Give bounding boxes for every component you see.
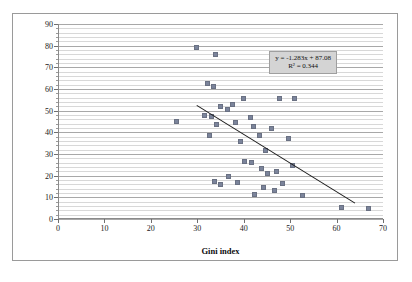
scatter-point	[241, 96, 246, 101]
y-tick	[56, 41, 58, 42]
y-tick	[56, 141, 58, 142]
y-tick	[56, 50, 58, 51]
gridline-major	[58, 111, 383, 112]
plot-area: 0102030405060708090 010203040506070 y = …	[58, 24, 383, 219]
gridline-minor	[58, 167, 383, 168]
gridline-major	[58, 197, 383, 198]
y-tick	[56, 167, 58, 168]
gridline-minor	[58, 37, 383, 38]
gridline-minor	[58, 158, 383, 159]
y-tick-label: 20	[45, 171, 53, 180]
x-tick-label: 70	[379, 224, 387, 233]
gridline-minor	[58, 137, 383, 138]
gridline-minor	[58, 85, 383, 86]
gridline-minor	[58, 80, 383, 81]
y-tick	[56, 85, 58, 86]
scatter-point	[225, 107, 230, 112]
scatter-point	[212, 179, 217, 184]
y-tick	[56, 158, 58, 159]
y-tick	[56, 115, 58, 116]
y-tick	[56, 184, 58, 185]
y-tick-label: 80	[45, 41, 53, 50]
y-tick	[54, 67, 58, 68]
gridline-minor	[58, 98, 383, 99]
y-tick	[56, 137, 58, 138]
gridline-minor	[58, 163, 383, 164]
gridline-major	[58, 176, 383, 177]
scatter-point	[202, 113, 207, 118]
y-tick	[56, 128, 58, 129]
y-tick	[54, 176, 58, 177]
y-tick	[56, 145, 58, 146]
x-tick-label: 10	[100, 224, 108, 233]
gridline-minor	[58, 33, 383, 34]
scatter-point	[248, 115, 253, 120]
y-tick-label: 70	[45, 63, 53, 72]
y-tick	[56, 206, 58, 207]
scatter-point	[230, 102, 235, 107]
y-tick	[56, 93, 58, 94]
gridline-major	[58, 89, 383, 90]
equation-annotation: y = -1.283x + 87.08 R² = 0.344	[269, 51, 337, 74]
y-tick-label: 10	[45, 193, 53, 202]
y-tick	[54, 89, 58, 90]
x-tick	[197, 219, 198, 223]
x-tick	[151, 219, 152, 223]
y-tick	[56, 33, 58, 34]
scatter-point	[366, 206, 371, 211]
gridline-minor	[58, 141, 383, 142]
gridline-minor	[58, 93, 383, 94]
r-squared-text: R² = 0.344	[275, 62, 331, 70]
x-tick	[244, 219, 245, 223]
x-tick-label: 30	[193, 224, 201, 233]
x-tick-label: 0	[56, 224, 60, 233]
y-tick-label: 30	[45, 150, 53, 159]
scatter-point	[233, 120, 238, 125]
scatter-point	[205, 81, 210, 86]
gridline-minor	[58, 115, 383, 116]
y-tick	[56, 72, 58, 73]
y-tick	[56, 180, 58, 181]
y-tick	[56, 215, 58, 216]
scatter-point	[274, 169, 279, 174]
x-tick	[104, 219, 105, 223]
gridline-major	[58, 219, 383, 220]
x-tick	[290, 219, 291, 223]
gridline-major	[58, 154, 383, 155]
scatter-point	[269, 126, 274, 131]
gridline-minor	[58, 193, 383, 194]
gridline-minor	[58, 210, 383, 211]
x-tick-label: 60	[333, 224, 341, 233]
y-tick	[56, 189, 58, 190]
gridline-minor	[58, 171, 383, 172]
gridline-minor	[58, 206, 383, 207]
y-tick	[54, 132, 58, 133]
scatter-point	[238, 139, 243, 144]
y-tick	[56, 76, 58, 77]
scatter-point	[174, 119, 179, 124]
x-tick	[337, 219, 338, 223]
y-tick	[56, 37, 58, 38]
scatter-point	[277, 96, 282, 101]
y-axis-line	[58, 24, 59, 219]
gridline-minor	[58, 202, 383, 203]
y-tick	[56, 150, 58, 151]
y-tick	[56, 28, 58, 29]
gridline-minor	[58, 41, 383, 42]
scatter-point	[235, 180, 240, 185]
y-tick	[56, 210, 58, 211]
x-axis-title: Gini index	[58, 246, 383, 256]
y-tick	[56, 202, 58, 203]
y-tick-label: 60	[45, 85, 53, 94]
equation-text: y = -1.283x + 87.08	[275, 54, 331, 62]
gridline-minor	[58, 150, 383, 151]
scatter-point	[249, 160, 254, 165]
scatter-point	[265, 171, 270, 176]
y-tick	[54, 154, 58, 155]
y-tick	[56, 124, 58, 125]
scatter-point	[218, 182, 223, 187]
y-tick-label: 0	[49, 215, 53, 224]
scatter-point	[213, 52, 218, 57]
x-tick-label: 50	[286, 224, 294, 233]
x-axis-line	[58, 218, 383, 219]
